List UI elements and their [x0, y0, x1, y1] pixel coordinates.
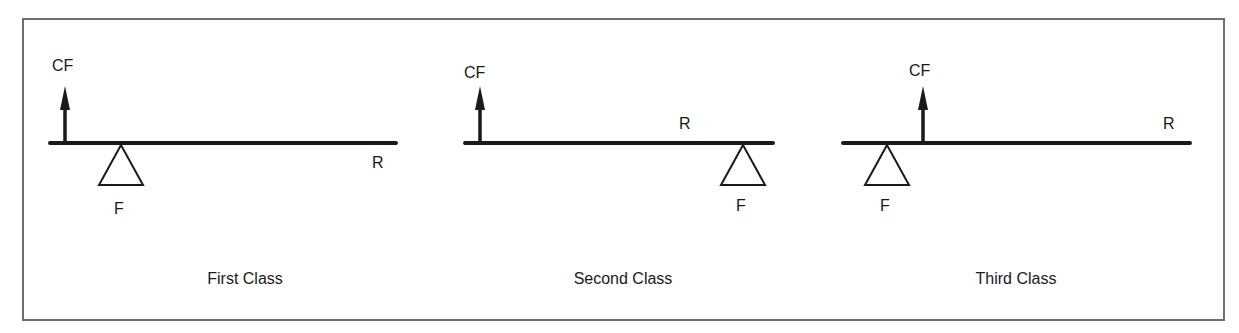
lever-1-fulcrum-triangle-icon [99, 145, 143, 185]
lever-1-effort-label: CF [52, 58, 73, 74]
lever-2-effort-arrow-icon [475, 86, 485, 110]
lever-1-caption: First Class [207, 271, 283, 287]
lever-2-resistance-label: R [679, 116, 691, 132]
lever-1-effort-arrow-icon [60, 86, 70, 110]
lever-3-effort-arrow-icon [918, 86, 928, 110]
lever-2-effort-label: CF [464, 65, 485, 81]
lever-1-resistance-label: R [372, 155, 384, 171]
lever-3-effort-label: CF [909, 63, 930, 79]
lever-2-caption: Second Class [574, 271, 673, 287]
lever-2-fulcrum-triangle-icon [721, 145, 765, 185]
lever-3-fulcrum-label: F [880, 198, 890, 214]
lever-1-fulcrum-label: F [114, 201, 124, 217]
lever-3-caption: Third Class [976, 271, 1057, 287]
lever-3-resistance-label: R [1163, 116, 1175, 132]
lever-3-fulcrum-triangle-icon [865, 145, 909, 185]
lever-2-fulcrum-label: F [736, 198, 746, 214]
